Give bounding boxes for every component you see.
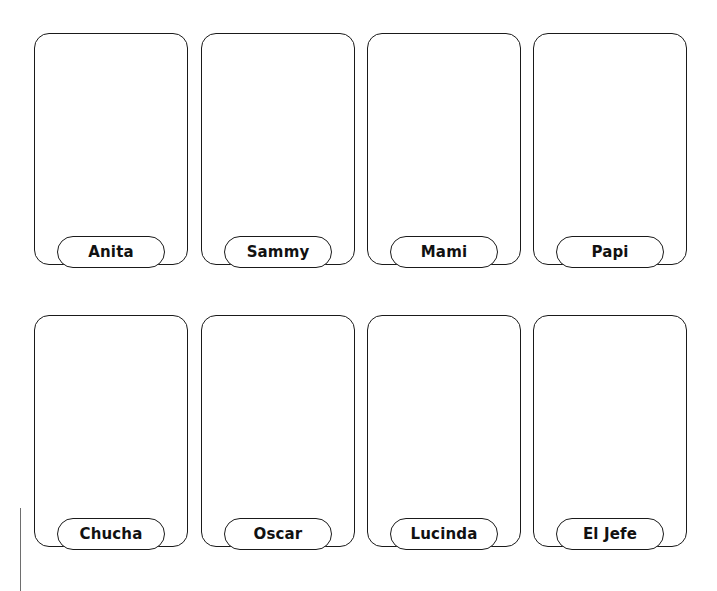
name-card-blank-area[interactable] [367, 33, 521, 265]
name-card-blank-area[interactable] [367, 315, 521, 547]
name-label-text: Anita [88, 245, 133, 260]
name-label-pill[interactable]: Chucha [57, 518, 165, 550]
name-card-blank-area[interactable] [201, 33, 355, 265]
name-label-pill[interactable]: El Jefe [556, 518, 664, 550]
name-label-text: Sammy [247, 245, 310, 260]
name-card[interactable]: Anita [34, 33, 188, 265]
name-card[interactable]: Lucinda [367, 315, 521, 547]
name-card[interactable]: Papi [533, 33, 687, 265]
worksheet-page: AnitaSammyMamiPapiChuchaOscarLucindaEl J… [0, 0, 717, 591]
name-label-text: Papi [591, 245, 628, 260]
name-label-pill[interactable]: Sammy [224, 236, 332, 268]
name-label-text: Chucha [80, 527, 143, 542]
name-label-text: El Jefe [583, 527, 637, 542]
name-card[interactable]: Chucha [34, 315, 188, 547]
name-card-blank-area[interactable] [533, 315, 687, 547]
name-label-pill[interactable]: Lucinda [390, 518, 498, 550]
name-card-blank-area[interactable] [34, 315, 188, 547]
name-label-text: Oscar [254, 527, 303, 542]
name-card-grid: AnitaSammyMamiPapiChuchaOscarLucindaEl J… [0, 0, 717, 591]
name-card[interactable]: Mami [367, 33, 521, 265]
name-card-blank-area[interactable] [201, 315, 355, 547]
name-card[interactable]: Oscar [201, 315, 355, 547]
name-card[interactable]: Sammy [201, 33, 355, 265]
name-card-blank-area[interactable] [34, 33, 188, 265]
name-label-text: Mami [421, 245, 467, 260]
name-label-pill[interactable]: Oscar [224, 518, 332, 550]
name-label-text: Lucinda [411, 527, 478, 542]
scan-edge-line [20, 508, 21, 591]
name-label-pill[interactable]: Papi [556, 236, 664, 268]
name-label-pill[interactable]: Anita [57, 236, 165, 268]
name-label-pill[interactable]: Mami [390, 236, 498, 268]
name-card-blank-area[interactable] [533, 33, 687, 265]
name-card[interactable]: El Jefe [533, 315, 687, 547]
